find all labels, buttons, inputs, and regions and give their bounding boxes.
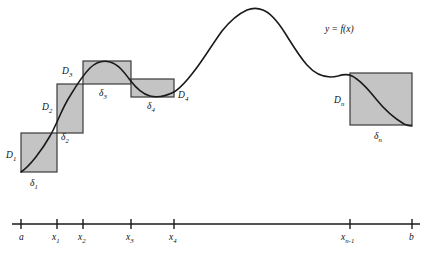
label-deltan: δn [374, 131, 382, 143]
curve-label: y = f(x) [324, 24, 354, 35]
label-delta1: δ1 [30, 178, 38, 190]
label-delta3: δ3 [99, 88, 107, 100]
label-D3: D3 [61, 66, 73, 78]
axis-label-a: a [19, 232, 24, 242]
axis-label-x4: x4 [168, 232, 177, 244]
label-Dn: Dn [333, 95, 345, 107]
riemann-oscillation-figure: y = f(x) D1 δ1 D2 δ2 D3 δ3 D4 [0, 0, 425, 259]
number-line-axis [12, 219, 420, 229]
axis-label-x3: x3 [125, 232, 134, 244]
axis-label-x1: x1 [51, 232, 60, 244]
axis-tick-labels: a x1 x2 x3 x4 xn-1 b [19, 232, 414, 244]
label-delta4: δ4 [147, 101, 155, 113]
figure-canvas: y = f(x) D1 δ1 D2 δ2 D3 δ3 D4 [0, 0, 425, 259]
label-delta2: δ2 [61, 132, 69, 144]
label-D4: D4 [177, 90, 189, 102]
axis-label-b: b [409, 232, 414, 242]
axis-label-xn1: xn-1 [340, 232, 354, 244]
rect-box-2 [57, 84, 83, 133]
label-D2: D2 [41, 102, 53, 114]
label-D1: D1 [5, 150, 16, 162]
axis-label-x2: x2 [77, 232, 86, 244]
